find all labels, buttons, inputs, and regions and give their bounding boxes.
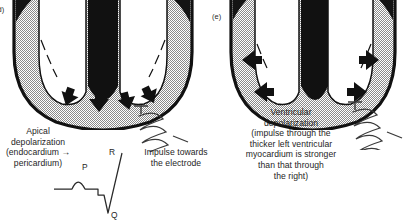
interventricular-septum-left [88,0,118,100]
ecg-label-r-left: R [109,147,115,157]
interventricular-septum-right [301,0,328,100]
ecg-label-q-left: Q [111,210,118,220]
coil-electrode-icon [126,92,204,152]
electrode-terminal-left [134,106,148,114]
caption-ventricular-depolarization: Ventricular depolarization (impulse thro… [211,107,371,181]
panel-apical-depolarization: (d) [0,0,207,220]
ecg-label-p-left: P [82,162,88,172]
electrode-lead-right [387,132,402,138]
left-ventricle-cavity-left [39,0,86,105]
panel-ventricular-depolarization: (e) [207,0,414,220]
cardiac-depolarization-figure: (d) [0,0,414,220]
electrode-lead-left [173,136,188,142]
ecg-trace-left: P R Q [52,145,152,220]
ecg-waveform-path-left [54,153,122,213]
